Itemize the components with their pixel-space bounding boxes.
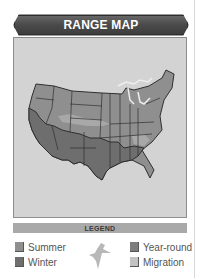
summer-swatch-icon (15, 242, 24, 252)
us-range-map-icon (14, 38, 186, 217)
legend-label: Summer (28, 242, 66, 253)
legend-item-migration: Migration (130, 256, 184, 268)
range-map-banner: RANGE MAP (13, 14, 189, 36)
winter-swatch-icon (15, 257, 24, 267)
legend-item-winter: Winter (15, 256, 57, 268)
bird-silhouette-icon (87, 241, 113, 271)
legend-title: LEGEND (85, 225, 116, 232)
year-round-swatch-icon (130, 242, 139, 252)
legend-label: Migration (143, 257, 184, 268)
legend-label: Winter (28, 257, 57, 268)
legend-item-year-round: Year-round (130, 241, 192, 253)
migration-swatch-icon (130, 257, 139, 267)
page-divider (194, 0, 195, 278)
legend-header: LEGEND (13, 223, 187, 233)
range-map-panel (13, 37, 187, 218)
range-map-title: RANGE MAP (63, 18, 138, 32)
legend-label: Year-round (143, 242, 192, 253)
legend-item-summer: Summer (15, 241, 66, 253)
